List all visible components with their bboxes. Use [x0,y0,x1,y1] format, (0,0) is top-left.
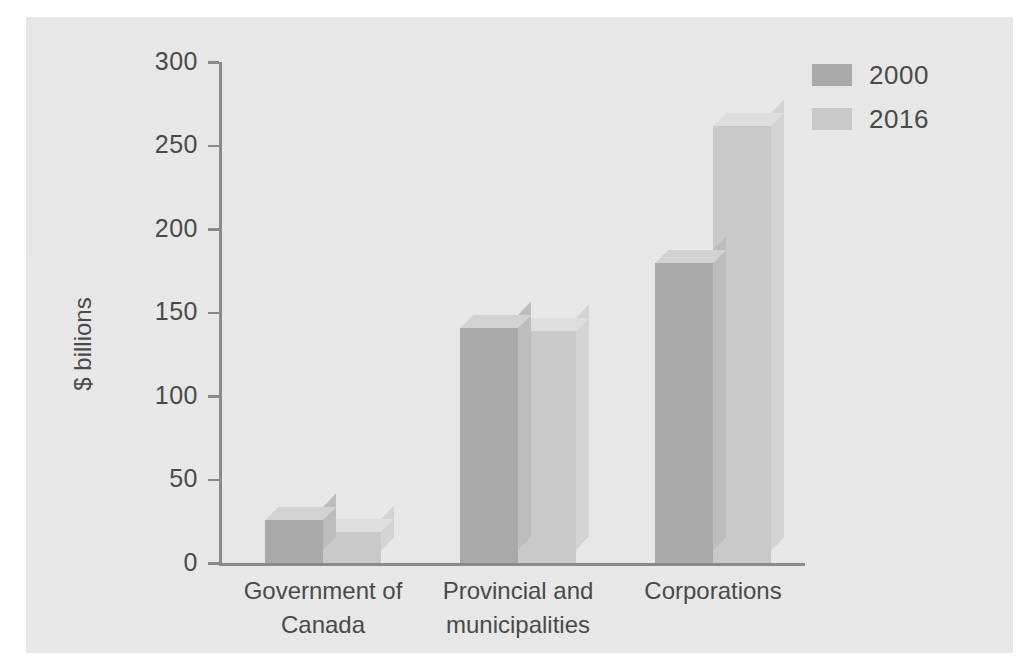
chart-figure: $ billions 050100150200250300 Government… [0,0,1036,672]
bar-front-face [265,520,323,563]
y-axis-line [219,62,222,565]
y-tick-label: 50 [132,464,198,493]
bar-front-face [655,263,713,564]
y-tick-label-wrap: 250 [128,130,198,160]
bar-side-face [518,302,531,551]
y-tick-label-wrap: 200 [128,214,198,244]
bar-2000-0 [265,520,323,563]
y-tick-label: 200 [132,214,198,243]
chart-legend: 20002016 [812,53,929,141]
y-tick-label-wrap: 150 [128,297,198,327]
y-tick-150 [208,312,219,315]
legend-item-2016[interactable]: 2016 [812,97,929,141]
bar-2000-2 [655,263,713,564]
y-axis-title: $ billions [69,244,97,444]
legend-swatch-icon [812,108,852,130]
y-tick-label: 250 [132,130,198,159]
y-tick-label: 0 [132,548,198,577]
y-tick-label-wrap: 0 [128,548,198,578]
plot-area: $ billions 050100150200250300 Government… [0,0,1036,672]
bar-2000-1 [460,328,518,563]
y-tick-200 [208,228,219,231]
y-tick-100 [208,395,219,398]
y-tick-50 [208,479,219,482]
y-tick-label: 150 [132,297,198,326]
y-tick-0 [208,562,219,565]
bar-front-face [460,328,518,563]
y-tick-label-wrap: 100 [128,381,198,411]
legend-label: 2000 [869,60,929,91]
legend-label: 2016 [869,104,929,135]
legend-item-2000[interactable]: 2000 [812,53,929,97]
y-tick-label-wrap: 50 [128,464,198,494]
y-tick-250 [208,145,219,148]
y-tick-label: 100 [132,381,198,410]
y-tick-300 [208,61,219,64]
y-tick-label: 300 [132,47,198,76]
bar-side-face [713,236,726,550]
bar-side-face [771,99,784,550]
legend-swatch-icon [812,64,852,86]
category-label-2: Corporations [563,574,863,608]
bar-side-face [576,305,589,551]
y-tick-label-wrap: 300 [128,47,198,77]
